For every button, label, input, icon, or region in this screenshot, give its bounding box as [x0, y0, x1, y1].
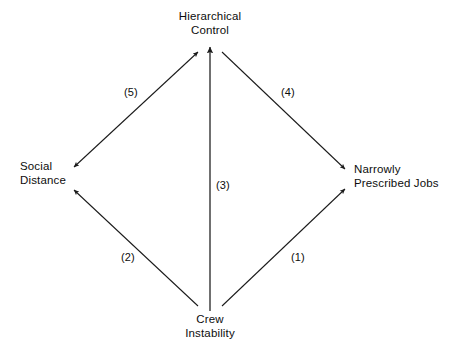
causal-loop-diagram: Hierarchical Control Social Distance Nar…	[0, 0, 455, 353]
node-social-distance-line2: Distance	[20, 174, 80, 188]
edge-1-line	[222, 189, 345, 306]
edge-label-2: (2)	[121, 251, 135, 263]
node-crew-instability-line2: Instability	[160, 327, 260, 341]
node-hierarchical-control-line1: Hierarchical	[155, 10, 265, 24]
node-narrowly-prescribed-jobs-line1: Narrowly	[354, 163, 454, 177]
edge-label-1: (1)	[291, 251, 305, 263]
edge-label-3: (3)	[216, 179, 230, 191]
edge-2-line	[74, 190, 198, 306]
node-social-distance-line1: Social	[20, 160, 80, 174]
node-crew-instability-line1: Crew	[160, 313, 260, 327]
node-narrowly-prescribed-jobs-line2: Prescribed Jobs	[354, 177, 454, 191]
node-crew-instability: Crew Instability	[160, 313, 260, 340]
edge-5-line	[74, 52, 198, 167]
node-social-distance: Social Distance	[20, 160, 80, 187]
edge-label-4: (4)	[281, 86, 295, 98]
edge-4-line	[222, 52, 345, 169]
node-hierarchical-control: Hierarchical Control	[155, 10, 265, 37]
node-narrowly-prescribed-jobs: Narrowly Prescribed Jobs	[354, 163, 454, 190]
node-hierarchical-control-line2: Control	[155, 24, 265, 38]
edge-label-5: (5)	[124, 86, 138, 98]
